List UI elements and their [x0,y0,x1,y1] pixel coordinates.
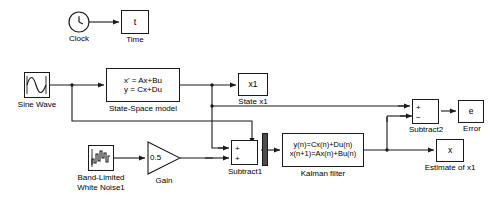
junction-statespace-2 [210,104,213,107]
subtract2-sign-bottom: − [416,114,421,122]
state-space-model-label: State-Space model [96,104,190,113]
time-value: t [134,17,137,28]
simulink-block-diagram: Clock t Time Sine Wave x' = Ax+Bu y = Cx… [0,0,498,199]
junction-kalman [385,148,388,151]
random-noise-icon [89,146,113,170]
subtract2-sign-top: + [416,104,421,112]
junction-statespace [210,83,213,86]
subtract2-label: Subtract2 [398,125,454,134]
time-block[interactable]: t [121,10,149,34]
kalman-filter-label: Kalman filter [287,169,359,178]
error-value: e [469,106,474,116]
state-space-model-block[interactable]: x' = Ax+Bu y = Cx+Du [106,68,180,102]
error-label: Error [451,124,493,133]
kalman-filter-block[interactable]: y(n)=Cx(n)+Du(n) x(n+1)=Ax(n)+Bu(n) [282,133,364,167]
subtract2-block[interactable]: + − [412,99,439,124]
wire-kalman-to-subtract2 [362,117,387,150]
estimate-x1-label: Estimate of x1 [412,163,488,172]
error-block[interactable]: e [458,100,484,123]
gain-value: 0.5 [150,153,161,162]
estimate-x1-value: x [448,145,452,155]
sine-wave-block[interactable] [24,72,50,98]
kalman-equation-2: x(n+1)=Ax(n)+Bu(n) [290,150,357,159]
sine-wave-icon [25,73,49,97]
estimate-x1-block[interactable]: x [436,139,464,162]
state-x1-label: State x1 [224,97,282,106]
white-noise-label-line2: White Noise1 [61,183,141,192]
time-label: Time [106,35,164,44]
clock-block[interactable] [67,10,91,34]
clock-icon [67,10,91,34]
mux-block[interactable] [262,133,268,166]
state-space-equation-2: y = Cx+Du [124,85,162,94]
wire-statespace-to-subtract1 [212,106,225,148]
junction-sine [70,83,73,86]
state-x1-value: x1 [249,79,258,89]
subtract1-label: Subtract1 [216,167,274,176]
subtract1-block[interactable]: + + [231,140,258,165]
subtract1-sign-top: + [235,145,240,153]
subtract1-sign-bottom: + [235,155,240,163]
clock-label: Clock [50,34,108,43]
gain-label: Gain [141,176,187,185]
band-limited-white-noise-block[interactable] [88,145,114,171]
state-x1-block[interactable]: x1 [238,73,268,96]
state-space-equation-1: x' = Ax+Bu [124,76,162,85]
gain-block[interactable]: 0.5 [147,141,181,175]
sine-wave-label: Sine Wave [6,100,68,109]
white-noise-label-line1: Band-Limited [61,173,141,182]
